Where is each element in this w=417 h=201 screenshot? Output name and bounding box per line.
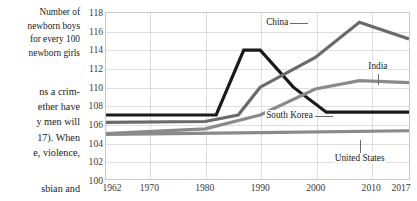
body-text-line: 17). When [0, 130, 80, 145]
leader-line-south-korea [315, 116, 333, 117]
x-tick-label: 1962 [102, 182, 121, 193]
y-tick-label: 100 [77, 175, 103, 186]
leader-line-united-states [360, 140, 361, 153]
y-tick-label: 102 [77, 156, 103, 167]
x-tick-label: 1970 [140, 182, 159, 193]
body-text-line: y men will [0, 114, 80, 129]
caption-line: for every 100 [0, 33, 80, 47]
figure-page: Number of newborn boys for every 100 new… [0, 0, 417, 201]
x-tick-label: 1990 [251, 182, 270, 193]
body-text-trailing-line: sbian and [0, 181, 80, 196]
leader-line-india [378, 74, 379, 85]
x-tick-label: 2017 [391, 182, 410, 193]
y-tick-label: 110 [77, 81, 103, 92]
chart-caption: Number of newborn boys for every 100 new… [0, 6, 80, 60]
body-text-block: ns a crim- ether have y men will 17). Wh… [0, 84, 80, 160]
line-chart: ChinaIndiaSouth KoreaUnited States [105, 12, 410, 180]
y-tick-label: 106 [77, 119, 103, 130]
y-tick-label: 118 [77, 7, 103, 18]
y-tick-label: 116 [77, 25, 103, 36]
y-tick-label: 112 [77, 63, 103, 74]
y-tick-label: 104 [77, 137, 103, 148]
body-text-line: ether have [0, 99, 80, 114]
x-axis: 1962197019801990200020102017 [105, 182, 410, 199]
caption-line: Number of [0, 6, 80, 20]
x-tick-label: 2000 [306, 182, 325, 193]
y-axis: 100102104106108110112114116118 [75, 12, 103, 180]
body-text-line: e, violence, [0, 145, 80, 160]
series-label-china: China [265, 17, 289, 27]
series-label-south-korea: South Korea [265, 110, 314, 120]
body-text-line: ns a crim- [0, 84, 80, 99]
caption-line: newborn boys [0, 20, 80, 34]
y-tick-label: 114 [77, 44, 103, 55]
y-tick-label: 108 [77, 100, 103, 111]
caption-line: newborn girls [0, 47, 80, 61]
series-label-india: India [367, 61, 388, 71]
left-text-column: Number of newborn boys for every 100 new… [0, 0, 80, 201]
x-tick-label: 1980 [195, 182, 214, 193]
leader-line-china [290, 23, 308, 24]
series-label-united-states: United States [334, 153, 386, 163]
x-tick-label: 2010 [362, 182, 381, 193]
series-line-china [106, 22, 409, 122]
series-line-south-korea [106, 50, 409, 115]
